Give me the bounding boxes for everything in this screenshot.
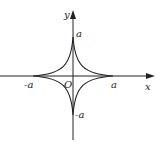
origin-label: O [64, 79, 72, 90]
x-axis-label: x [145, 81, 151, 92]
top-cusp-label: a [76, 28, 82, 39]
bottom-cusp-label: -a [75, 109, 84, 120]
y-axis-arrow-icon [70, 10, 76, 19]
y-axis-label: y [63, 9, 70, 20]
right-cusp-label: a [111, 79, 117, 90]
x-axis-arrow-icon [146, 73, 155, 79]
astroid-diagram: y x O a -a -a a [0, 0, 163, 147]
left-cusp-label: -a [24, 79, 33, 90]
